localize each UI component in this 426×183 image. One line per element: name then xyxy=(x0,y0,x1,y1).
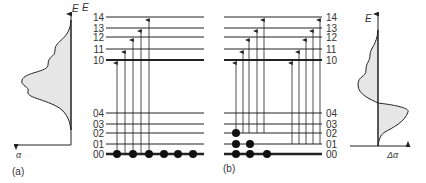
level-label: 11 xyxy=(326,44,337,55)
spectrum-b: E Δα xyxy=(350,13,408,160)
level-label: 00 xyxy=(326,149,338,160)
diagram: E α (a) 14 13 12 11 10 04 03 02 01 00 E xyxy=(0,0,426,183)
level-label: 14 xyxy=(326,12,338,23)
svg-text:E: E xyxy=(82,2,89,13)
level-label: 04 xyxy=(93,108,105,119)
level-label: 10 xyxy=(93,55,105,66)
level-label: 04 xyxy=(326,108,338,119)
axis-label-E-b: E xyxy=(365,13,372,24)
level-label: 11 xyxy=(94,44,105,55)
level-label: 14 xyxy=(93,12,105,23)
level-label: 12 xyxy=(93,32,105,43)
axis-label-alpha: α xyxy=(16,150,22,160)
level-label: 00 xyxy=(93,149,105,160)
level-label: 02 xyxy=(93,128,105,139)
level-label: 02 xyxy=(326,128,338,139)
level-label: 10 xyxy=(326,55,338,66)
axis-label-delta-alpha: Δα xyxy=(386,150,399,160)
panel-label-a: (a) xyxy=(12,166,24,177)
level-label: 12 xyxy=(326,32,338,43)
axis-label-E-a: E xyxy=(72,3,79,14)
panel-label-b: (b) xyxy=(223,163,235,174)
spectrum-a: E α (a) xyxy=(12,3,79,177)
energy-levels-a xyxy=(106,17,204,154)
